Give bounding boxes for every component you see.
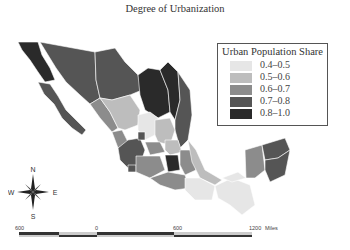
legend-swatch xyxy=(230,97,252,107)
region-chihuahua xyxy=(95,48,142,100)
region-estado-de-mexico xyxy=(165,155,180,172)
legend-label: 0.5–0.6 xyxy=(260,71,290,82)
legend-swatch xyxy=(230,85,252,95)
compass-n: N xyxy=(30,166,35,173)
scale-tick-label: 0 xyxy=(95,225,98,231)
legend-swatch xyxy=(230,61,252,71)
compass-w: W xyxy=(8,189,15,196)
scale-unit: Miles xyxy=(265,225,278,231)
legend-swatch xyxy=(230,109,252,119)
legend-label: 0.4–0.5 xyxy=(260,59,290,70)
legend-label: 0.6–0.7 xyxy=(260,83,290,94)
legend-swatch xyxy=(230,73,252,83)
legend: Urban Population Share 0.4–0.5 0.5–0.6 0… xyxy=(217,43,328,126)
scale-bar-graphic xyxy=(19,232,269,238)
region-tabasco xyxy=(222,172,246,182)
legend-label: 0.7–0.8 xyxy=(260,95,290,106)
region-aguascalientes xyxy=(138,132,145,140)
scale-tick-label: 1200 xyxy=(249,225,261,231)
legend-item: 0.8–1.0 xyxy=(230,109,325,120)
region-colima xyxy=(128,165,136,172)
legend-title: Urban Population Share xyxy=(218,46,327,57)
region-guanajuato xyxy=(145,142,165,155)
scale-tick-label: 600 xyxy=(15,225,24,231)
region-chiapas xyxy=(215,178,255,215)
compass-rose-icon: N S W E xyxy=(8,165,58,220)
compass-e: E xyxy=(53,189,58,196)
scale-tick-label: 600 xyxy=(173,225,182,231)
legend-label: 0.8–1.0 xyxy=(260,107,290,118)
scale-bar: 600 0 600 1200 Miles xyxy=(15,225,295,245)
region-campeche xyxy=(245,145,265,178)
compass-s: S xyxy=(31,213,36,220)
